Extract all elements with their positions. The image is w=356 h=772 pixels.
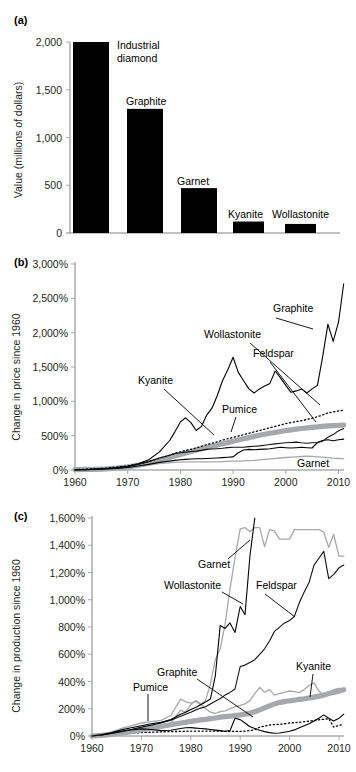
panel-c-xtick-2010: 2010	[327, 742, 351, 754]
annotation-kyanite-c: Kyanite	[296, 660, 331, 672]
bar-label-graphite: Graphite	[126, 95, 166, 107]
panel-c-ytick-0: 0%	[70, 730, 85, 742]
panel-a-ytick-label-1000: 1,000	[36, 132, 62, 144]
panel-a-chart: (a) Value (millions of dollars) 2,000 1,…	[0, 0, 356, 252]
annotation-graphite-c: Graphite	[157, 666, 197, 678]
leader-graphite-b	[276, 318, 313, 329]
panel-c-y-axis-title: Change in production since 1960	[10, 559, 22, 713]
panel-b-y-axis-title: Change in price since 1960	[10, 313, 22, 440]
bar-label-industrial-diamond-line1: Industrial	[117, 39, 160, 51]
annotation-pumice-b: Pumice	[222, 403, 257, 415]
annotation-feldspar-c: Feldspar	[256, 579, 297, 591]
panel-a-ytick-label-0: 0	[56, 227, 62, 239]
panel-a-y-axis-title: Value (millions of dollars)	[12, 82, 24, 199]
panel-b-ytick-1500: 1,500%	[32, 361, 68, 373]
annotation-feldspar-b: Feldspar	[253, 347, 294, 359]
panel-c: (c) Change in production since 1960 1,60…	[0, 504, 356, 772]
panel-b-chart: (b) Change in price since 1960 3,000% 2,…	[0, 252, 356, 504]
panel-b-xtick-2010: 2010	[327, 476, 351, 488]
panel-b-xtick-2000: 2000	[274, 476, 298, 488]
panel-b-ytick-0: 0%	[53, 464, 68, 476]
panel-b-xtick-1970: 1970	[116, 476, 140, 488]
leader-kyanite-b	[164, 389, 214, 435]
panel-b-xtick-1990: 1990	[221, 476, 245, 488]
panel-b-label: (b)	[14, 256, 28, 268]
panel-c-xtick-1960: 1960	[80, 742, 104, 754]
bar-graphite	[127, 109, 163, 233]
annotation-wollastonite-b: Wollastonite	[204, 328, 261, 340]
bar-wollastonite	[285, 224, 316, 233]
bar-kyanite	[233, 222, 264, 233]
bar-label-garnet: Garnet	[177, 175, 209, 187]
leader-wollastonite-c	[222, 592, 243, 604]
leader-feldspar-b	[270, 362, 316, 422]
annotation-wollastonite-c: Wollastonite	[164, 579, 221, 591]
panel-b-ytick-2000: 2,000%	[32, 327, 68, 339]
panel-c-ytick-200: 200%	[58, 703, 85, 715]
panel-a-ytick-label-1500: 1,500	[36, 84, 62, 96]
panel-c-ytick-1600: 1,600%	[49, 512, 85, 524]
panel-b-ytick-1000: 1,000%	[32, 395, 68, 407]
panel-b-ytick-2500: 2,500%	[32, 292, 68, 304]
panel-c-x-ticks	[92, 736, 339, 740]
bar-label-wollastonite: Wollastonite	[272, 208, 329, 220]
panel-c-label: (c)	[14, 510, 28, 522]
panel-b-ytick-3000: 3,000%	[32, 258, 68, 270]
panel-c-ytick-1200: 1,200%	[49, 567, 85, 579]
bar-industrial-diamond	[73, 42, 109, 233]
series-wollastonite-line-c	[92, 518, 255, 736]
annotation-kyanite-b: Kyanite	[138, 374, 173, 386]
panel-a-ytick-label-2000: 2,000	[36, 36, 62, 48]
leader-pumice-b	[231, 417, 236, 432]
panel-c-ytick-400: 400%	[58, 676, 85, 688]
leader-feldspar-c	[265, 594, 295, 617]
annotation-graphite-b: Graphite	[273, 302, 313, 314]
panel-c-ytick-800: 800%	[58, 621, 85, 633]
panel-c-ytick-1400: 1,400%	[49, 539, 85, 551]
bar-garnet	[181, 188, 217, 233]
panel-c-chart: (c) Change in production since 1960 1,60…	[0, 504, 356, 772]
panel-c-xtick-1980: 1980	[179, 742, 203, 754]
panel-c-xtick-2000: 2000	[278, 742, 302, 754]
panel-c-ytick-1000: 1,000%	[49, 594, 85, 606]
panel-a-label: (a)	[14, 14, 28, 26]
bar-label-industrial-diamond-line2: diamond	[117, 52, 157, 64]
panel-b-y-ticks	[71, 264, 75, 470]
bar-label-kyanite: Kyanite	[228, 208, 263, 220]
panel-b-ytick-500: 500%	[41, 430, 68, 442]
leader-garnet-c	[228, 540, 250, 559]
panel-b-xtick-1980: 1980	[169, 476, 193, 488]
panel-b: (b) Change in price since 1960 3,000% 2,…	[0, 252, 356, 504]
panel-c-ytick-600: 600%	[58, 648, 85, 660]
annotation-garnet-b: Garnet	[297, 457, 329, 469]
panel-c-y-ticks	[88, 518, 92, 736]
panel-b-xtick-1960: 1960	[63, 476, 87, 488]
panel-a: (a) Value (millions of dollars) 2,000 1,…	[0, 0, 356, 252]
annotation-garnet-c: Garnet	[198, 558, 230, 570]
annotation-pumice-c: Pumice	[133, 681, 168, 693]
panel-c-xtick-1990: 1990	[229, 742, 253, 754]
leader-kyanite-c	[310, 674, 313, 697]
panel-a-ytick-label-500: 500	[44, 179, 62, 191]
panel-c-xtick-1970: 1970	[130, 742, 154, 754]
